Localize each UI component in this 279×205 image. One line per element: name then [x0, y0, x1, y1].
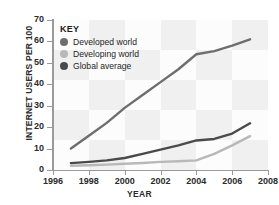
legend-item: Developed world [60, 37, 139, 47]
x-tick-mark [125, 170, 126, 175]
x-tick-label: 2002 [141, 176, 181, 186]
legend-swatch-icon [60, 50, 68, 58]
x-tick-mark [232, 170, 233, 175]
y-tick-mark [47, 41, 53, 42]
y-tick-mark [47, 20, 53, 21]
y-tick-label: 0 [0, 164, 44, 174]
legend-item: Global average [60, 61, 139, 71]
legend-label: Global average [73, 61, 131, 71]
legend-label: Developing world [73, 49, 139, 59]
x-axis-title: YEAR [0, 189, 279, 199]
y-axis-title: INTERNET USERS PER 100 [24, 8, 34, 158]
y-tick-label: 40 [0, 78, 44, 88]
y-tick-mark [47, 63, 53, 64]
y-tick-label: 10 [0, 143, 44, 153]
x-tick-mark [89, 170, 90, 175]
legend-label: Developed world [73, 37, 137, 47]
x-tick-label: 2004 [176, 176, 216, 186]
y-tick-mark [47, 84, 53, 85]
x-tick-mark [53, 170, 54, 175]
x-tick-mark [268, 170, 269, 175]
y-tick-label: 60 [0, 35, 44, 45]
chart-legend: KEY Developed worldDeveloping worldGloba… [60, 24, 139, 73]
y-tick-label: 50 [0, 57, 44, 67]
x-tick-mark [161, 170, 162, 175]
legend-title: KEY [60, 24, 139, 34]
legend-swatch-icon [60, 62, 68, 70]
y-tick-label: 70 [0, 14, 44, 24]
x-tick-mark [196, 170, 197, 175]
legend-swatch-icon [60, 38, 68, 46]
y-tick-mark [47, 127, 53, 128]
legend-items: Developed worldDeveloping worldGlobal av… [60, 37, 139, 71]
x-tick-label: 2008 [248, 176, 279, 186]
y-tick-label: 20 [0, 121, 44, 131]
y-tick-mark [47, 149, 53, 150]
x-tick-label: 1996 [33, 176, 73, 186]
y-tick-mark [47, 106, 53, 107]
y-tick-label: 30 [0, 100, 44, 110]
x-tick-label: 2000 [105, 176, 145, 186]
x-tick-label: 1998 [69, 176, 109, 186]
legend-item: Developing world [60, 49, 139, 59]
x-tick-label: 2006 [212, 176, 252, 186]
line-chart: 010203040506070 199619982000200220042006… [0, 0, 279, 205]
